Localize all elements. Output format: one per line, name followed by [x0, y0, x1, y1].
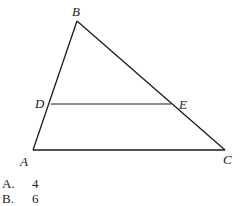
- label-e: E: [178, 97, 187, 112]
- answer-choices: A. 4 B. 6: [2, 176, 39, 206]
- label-b: B: [72, 4, 80, 19]
- choice-a[interactable]: A. 4: [2, 176, 39, 191]
- segment-ab: [33, 21, 77, 150]
- segment-bc: [77, 21, 225, 150]
- choice-b[interactable]: B. 6: [2, 191, 39, 206]
- choice-value: 6: [32, 191, 39, 206]
- label-d: D: [34, 96, 45, 111]
- triangle-figure: B D E A C: [0, 0, 242, 176]
- choice-letter: B.: [2, 191, 32, 206]
- choice-letter: A.: [2, 176, 32, 191]
- label-a: A: [19, 154, 28, 169]
- label-c: C: [223, 152, 232, 167]
- choice-value: 4: [32, 176, 39, 191]
